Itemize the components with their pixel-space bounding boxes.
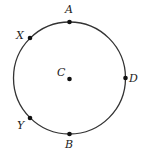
point-c: [67, 77, 72, 82]
point-d: [123, 76, 128, 81]
label-c: C: [57, 66, 66, 79]
label-x: X: [15, 29, 25, 42]
label-d: D: [128, 72, 138, 85]
point-b: [67, 132, 72, 137]
point-a: [67, 20, 72, 25]
point-y: [28, 116, 33, 121]
point-x: [28, 36, 33, 41]
circle-diagram: C A X D Y B: [0, 0, 149, 150]
label-a: A: [64, 3, 73, 16]
label-b: B: [64, 138, 73, 150]
label-y: Y: [17, 119, 26, 132]
